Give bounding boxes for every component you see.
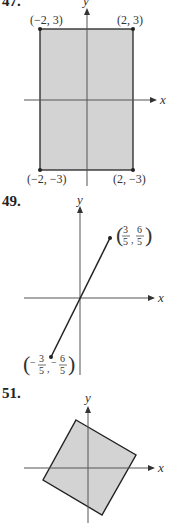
- y-axis-arrow-icon: [84, 8, 90, 15]
- x-axis-arrow-icon: [150, 97, 157, 103]
- y-axis-label: y: [83, 390, 91, 405]
- svg-text:5: 5: [60, 365, 65, 376]
- rectangle-plot: x y (−2, 3) (2, 3) (−2, −3) (2, −3): [0, 0, 173, 195]
- svg-text:3: 3: [123, 224, 128, 235]
- label-top-right: (2, 3): [117, 13, 143, 27]
- label-lower-point: ( − 3 5 , − 6 5 ): [23, 351, 75, 376]
- x-axis-label: x: [157, 290, 164, 305]
- y-axis-arrow-icon: [77, 206, 83, 213]
- graph-49: 49. x y ( 3 5 , 6 5 ) ( − 3 5 ,: [0, 193, 173, 385]
- svg-text:5: 5: [39, 365, 44, 376]
- label-bottom-right: (2, −3): [113, 172, 146, 186]
- svg-text:6: 6: [137, 224, 142, 235]
- svg-text:,: ,: [47, 363, 50, 374]
- svg-text:5: 5: [137, 236, 142, 247]
- graph-51: 51. x y: [0, 385, 173, 523]
- label-upper-point: ( 3 5 , 6 5 ): [116, 222, 152, 247]
- y-axis-label: y: [81, 0, 89, 8]
- y-axis-arrow-icon: [85, 406, 91, 413]
- svg-text:6: 6: [60, 353, 65, 364]
- rotated-square-plot: x y: [0, 385, 173, 523]
- x-axis-arrow-icon: [148, 295, 155, 301]
- x-axis-label: x: [159, 92, 166, 107]
- label-top-left: (−2, 3): [30, 13, 63, 27]
- svg-text:,: ,: [131, 234, 134, 245]
- svg-text:): ): [145, 222, 152, 247]
- svg-text:5: 5: [123, 236, 128, 247]
- label-bottom-left: (−2, −3): [27, 172, 67, 186]
- y-axis-label: y: [75, 193, 83, 207]
- graph-47: 47. x y (−2, 3) (2, 3) (−2, −3) (2, −3): [0, 0, 173, 195]
- x-axis-arrow-icon: [148, 465, 155, 471]
- segment-plot: x y ( 3 5 , 6 5 ) ( − 3 5 , − 6 5 ): [0, 193, 173, 385]
- svg-text:3: 3: [39, 353, 44, 364]
- svg-text:): ): [68, 351, 75, 376]
- x-axis-label: x: [157, 460, 164, 475]
- svg-text:−: −: [30, 357, 36, 368]
- svg-text:−: −: [51, 357, 57, 368]
